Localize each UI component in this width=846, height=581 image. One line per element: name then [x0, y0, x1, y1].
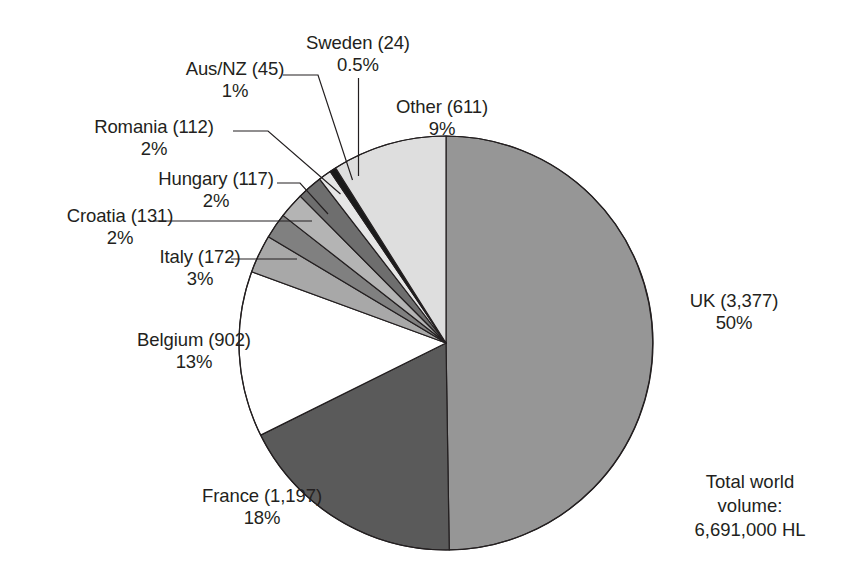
slice-label-uk-name: UK (3,377) — [668, 290, 800, 312]
pie-chart-figure: Sweden (24) 0.5% Aus/NZ (45) 1% Romania … — [0, 0, 846, 581]
slice-label-france: France (1,197) 18% — [184, 485, 340, 529]
slice-label-romania: Romania (112) 2% — [81, 116, 227, 160]
slice-label-sweden: Sweden (24) 0.5% — [292, 32, 424, 76]
slice-label-italy: Italy (172) 3% — [146, 246, 254, 290]
slice-label-sweden-percent: 0.5% — [292, 54, 424, 76]
slice-label-other: Other (611) 9% — [368, 96, 516, 140]
slice-label-ausnz-percent: 1% — [168, 80, 302, 102]
slice-label-uk: UK (3,377) 50% — [668, 290, 800, 334]
slice-label-croatia-name: Croatia (131) — [44, 205, 196, 227]
slice-label-other-name: Other (611) — [368, 96, 516, 118]
slice-label-romania-name: Romania (112) — [81, 116, 227, 138]
slice-label-other-percent: 9% — [368, 118, 516, 140]
slice-label-uk-percent: 50% — [668, 312, 800, 334]
slice-label-ausnz-name: Aus/NZ (45) — [168, 58, 302, 80]
slice-label-belgium-name: Belgium (902) — [113, 329, 275, 351]
pie-slice-uk[interactable] — [446, 136, 653, 550]
slice-label-hungary-name: Hungary (117) — [146, 168, 286, 190]
slice-label-sweden-name: Sweden (24) — [292, 32, 424, 54]
total-note-line2: volume: — [670, 494, 830, 518]
total-world-volume-note: Total world volume: 6,691,000 HL — [670, 470, 830, 542]
slice-label-ausnz: Aus/NZ (45) 1% — [168, 58, 302, 102]
slice-label-italy-percent: 3% — [146, 268, 254, 290]
slice-label-romania-percent: 2% — [81, 138, 227, 160]
slice-label-france-name: France (1,197) — [184, 485, 340, 507]
total-note-line3: 6,691,000 HL — [670, 518, 830, 542]
slice-label-italy-name: Italy (172) — [146, 246, 254, 268]
slice-label-france-percent: 18% — [184, 507, 340, 529]
slice-label-croatia: Croatia (131) 2% — [44, 205, 196, 249]
total-note-line1: Total world — [670, 470, 830, 494]
slice-label-belgium: Belgium (902) 13% — [113, 329, 275, 373]
slice-label-belgium-percent: 13% — [113, 351, 275, 373]
